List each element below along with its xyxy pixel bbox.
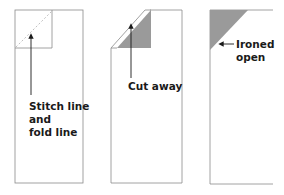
label-stitch-fold-line: Stitch line and fold line xyxy=(29,100,89,139)
label-ironed-open: Ironed open xyxy=(236,38,274,64)
panel-step-2 xyxy=(111,10,182,183)
label-cut-away: Cut away xyxy=(128,80,182,93)
panel-step-3 xyxy=(210,10,273,184)
stitch-line xyxy=(16,11,52,47)
panel-step-1 xyxy=(15,10,83,183)
diagram-canvas xyxy=(0,0,284,195)
seam-allowance-shade xyxy=(117,10,151,48)
fabric-outline xyxy=(15,10,83,183)
